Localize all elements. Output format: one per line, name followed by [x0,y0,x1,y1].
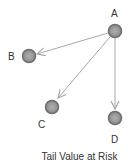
node-a[interactable] [109,25,122,38]
node-label-b: B [8,52,15,62]
edges [37,33,115,109]
node-label-d: D [111,135,118,145]
edge-a-c [58,37,110,98]
nodes [23,25,122,125]
node-label-c: C [38,120,45,130]
node-d[interactable] [109,112,122,125]
node-b[interactable] [23,50,36,63]
diagram-caption: Tail Value at Risk [30,151,129,162]
edge-a-b [37,33,108,54]
node-c[interactable] [46,101,59,114]
graph-canvas [0,0,129,165]
node-label-a: A [111,9,118,19]
